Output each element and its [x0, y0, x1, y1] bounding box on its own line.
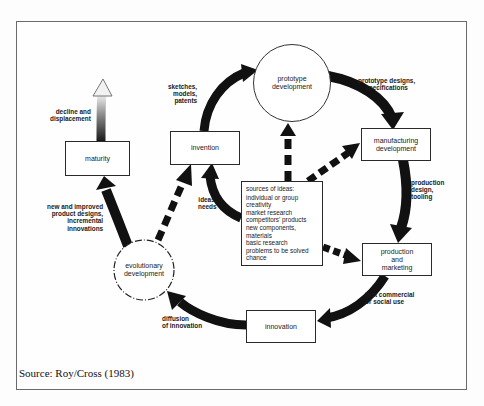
source-item: competitors' products [246, 216, 318, 224]
source-item: creativity [246, 201, 318, 209]
node-manufacturing-label: manufacturing development [374, 137, 418, 153]
arrow-evolutionary-to-invention [158, 164, 192, 240]
node-innovation: innovation [246, 310, 316, 343]
node-evolutionary-development: evolutionary development [114, 240, 174, 300]
arrow-invention-to-prototype [204, 64, 258, 131]
label-diffusion-of-innovation: diffusion of innovation [162, 315, 202, 329]
source-item: materials [246, 232, 318, 240]
node-innovation-label: innovation [265, 323, 297, 331]
node-maturity: maturity [65, 141, 130, 176]
node-manufacturing-development: manufacturing development [361, 128, 431, 161]
node-invention-label: invention [191, 144, 219, 152]
arrow-manufacturing-to-production [390, 160, 412, 243]
arrow-sources-to-prototype [280, 123, 296, 181]
source-item: individual or group [246, 194, 318, 202]
label-production-design-tooling: production design, tooling [411, 179, 444, 201]
diagram-stage: prototype development manufacturing deve… [0, 0, 484, 406]
source-item: market research [246, 209, 318, 217]
label-prototype-designs: prototype designs, specifications [358, 77, 415, 91]
node-production-and-marketing: production and marketing [362, 243, 432, 276]
label-new-and-improved: new and improved product designs, increm… [47, 203, 103, 232]
label-sketches-models-patents: sketches, models, patents [168, 83, 197, 105]
sources-of-ideas-box: sources of ideas: individual or group cr… [241, 181, 323, 266]
node-production-label: production and marketing [381, 248, 414, 272]
caption-source: Source: Roy/Cross (1983) [19, 367, 134, 379]
node-prototype-label: prototype development [272, 75, 312, 91]
arrow-sources-to-production [323, 247, 361, 264]
label-decline-and-displacement: decline and displacement [50, 108, 91, 122]
label-ideas-needs: ideas, needs [198, 196, 216, 210]
sources-title: sources of ideas: [246, 185, 318, 193]
node-prototype-development: prototype development [253, 44, 331, 122]
label-first-commercial-use: first commercial or social use [365, 291, 414, 305]
node-evolutionary-label: evolutionary development [124, 262, 164, 278]
arrow-sources-to-manufacturing [308, 143, 360, 181]
node-maturity-label: maturity [85, 155, 110, 163]
node-invention: invention [170, 131, 240, 165]
source-item: basic research [246, 239, 318, 247]
source-item: chance [246, 254, 318, 262]
source-item: new components, [246, 224, 318, 232]
arrow-decline-and-displacement [93, 79, 112, 141]
source-item: problems to be solved [246, 247, 318, 255]
